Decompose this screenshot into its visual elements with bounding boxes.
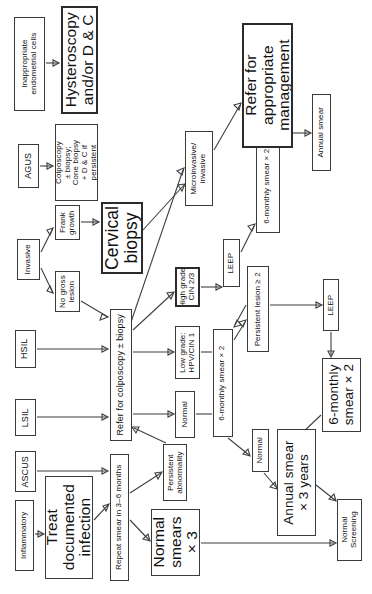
node-label-refer_appropriate_management: Refer for appropriate management: [242, 40, 292, 131]
node-label-agus: AGUS: [24, 153, 34, 179]
node-six_monthly_smear_x2_mid[interactable]: 6-monthly smear × 2: [213, 329, 233, 437]
persistentlesion-to-sixmonthlymid: [234, 305, 246, 327]
node-label-inflammatory: Inflammatory: [20, 512, 29, 559]
node-repeat_smear_3_6[interactable]: Repeat smear in 3–6 months: [110, 454, 129, 581]
node-label-annual_smear: Annual smear: [317, 107, 326, 158]
treat-to-repeat: [94, 504, 109, 520]
cervicalbiopsy-to-micro: [143, 184, 185, 230]
node-no_gross_lesion[interactable]: No gross lesion: [55, 271, 80, 312]
node-high_grade[interactable]: High grade: CIN 2/3: [175, 267, 200, 307]
node-label-frank_growth: Frank growth: [59, 210, 76, 235]
highgrade-to-leep: [201, 284, 222, 290]
node-label-persistent_lesion: Persistent lesion ≥ 2: [254, 272, 263, 346]
node-low_grade[interactable]: Low grade: HPV/CIN 1: [175, 326, 200, 379]
inflammatory-to-treat: [35, 531, 44, 537]
sixmonthlymid-to-persistentlesion: [234, 320, 246, 340]
node-colposcopy_cone[interactable]: Colposcopy ± biopsy; Cone biopsy + D & C…: [55, 124, 98, 201]
node-six_monthly_smear_x2_top[interactable]: 6-monthly smear × 2: [256, 139, 280, 233]
node-label-normal_smears_x3: Normal smears × 3: [151, 517, 200, 568]
persistent-to-refer: [132, 427, 166, 443]
node-label-normal_small: Normal: [256, 437, 265, 463]
agus-to-colposcopy: [40, 163, 53, 169]
node-label-six_monthly_smear_x2_big: 6-monthly smear × 2: [327, 364, 356, 425]
sixmonthlymid-to-normalsmall: [228, 438, 250, 456]
nogross-to-refer: [81, 301, 108, 320]
node-hsil[interactable]: HSIL: [15, 330, 36, 368]
node-treat_documented_infection[interactable]: Treat documented infection: [45, 476, 93, 579]
node-label-normal_path: Normal: [181, 401, 190, 427]
flowchart-canvas: Inappropriate endometrial cellsHysterosc…: [0, 0, 372, 594]
node-cervical_biopsy[interactable]: Cervical biopsy: [101, 202, 143, 274]
node-normal_screening[interactable]: Normal Screening: [337, 499, 362, 561]
node-refer_appropriate_management[interactable]: Refer for appropriate management: [242, 23, 293, 148]
node-label-six_monthly_smear_x2_mid: 6-monthly smear × 2: [219, 345, 228, 420]
node-label-leep_upper: LEEP: [227, 253, 236, 274]
node-label-hsil: HSIL: [21, 339, 31, 359]
repeat-to-normalsmears: [130, 520, 150, 541]
node-label-ascus: ASCUS: [21, 456, 31, 488]
node-label-cervical_biopsy: Cervical biopsy: [103, 206, 141, 270]
node-label-hysteroscopy_dc: Hysteroscopy and/or D & C: [63, 12, 96, 107]
node-label-refer_colposcopy: Refer for colposcopy ± biopsy: [116, 314, 126, 435]
node-frank_growth[interactable]: Frank growth: [55, 205, 80, 240]
node-invasive[interactable]: Invasive: [17, 239, 40, 280]
refer-to-normal: [133, 411, 174, 417]
node-persistent_abnormality[interactable]: Persistent abnormality: [163, 444, 187, 501]
node-refer_colposcopy[interactable]: Refer for colposcopy ± biopsy: [110, 309, 132, 441]
node-ascus[interactable]: ASCUS: [15, 451, 36, 492]
invasive-to-frank: [41, 228, 53, 252]
node-annual_smear[interactable]: Annual smear: [312, 94, 331, 171]
node-normal_smears_x3[interactable]: Normal smears × 3: [151, 509, 200, 576]
node-label-persistent_abnormality: Persistent abnormality: [166, 451, 183, 493]
node-label-invasive: Invasive: [24, 244, 33, 274]
node-label-six_monthly_smear_x2_top: 6-monthly smear × 2: [264, 148, 273, 223]
lsil-to-refer: [37, 414, 108, 420]
leep-to-sixmonthlytop: [241, 224, 255, 252]
node-label-microinvasive: Microinvasive/ invasive: [190, 142, 207, 194]
refer-to-highgrade: [133, 292, 174, 330]
node-label-no_gross_lesion: No gross lesion: [59, 275, 76, 308]
invasive-to-nogross: [41, 268, 53, 293]
node-label-annual_smear_3_years: Annual smear × 3 years: [282, 440, 311, 525]
node-label-lsil: LSIL: [21, 408, 31, 427]
node-label-low_grade: Low grade: HPV/CIN 1: [179, 332, 196, 373]
node-label-high_grade: High grade: CIN 2/3: [179, 267, 196, 307]
node-leep_lower[interactable]: LEEP: [323, 279, 339, 331]
node-hysteroscopy_dc[interactable]: Hysteroscopy and/or D & C: [61, 6, 98, 114]
node-normal_small[interactable]: Normal: [252, 429, 269, 472]
node-label-inappropriate_endometrial: Inappropriate endometrial cells: [21, 33, 38, 95]
frank-to-cervicalbiopsy: [81, 219, 99, 225]
node-leep_upper[interactable]: LEEP: [223, 239, 240, 287]
node-label-leep_lower: LEEP: [327, 295, 336, 316]
micro-to-refermanagement: [214, 103, 241, 150]
node-label-treat_documented_infection: Treat documented infection: [45, 484, 93, 570]
ascus-to-repeat: [37, 468, 108, 474]
repeat-to-persistent: [130, 472, 162, 493]
node-label-repeat_smear_3_6: Repeat smear in 3–6 months: [115, 465, 124, 570]
node-agus[interactable]: AGUS: [18, 144, 39, 188]
node-six_monthly_smear_x2_big[interactable]: 6-monthly smear × 2: [322, 358, 361, 432]
leeplower-to-sixmonthlybig: [328, 332, 334, 357]
inappropriate-to-hysteroscopy: [46, 60, 59, 66]
refer-to-lowgrade: [133, 349, 174, 355]
node-persistent_lesion[interactable]: Persistent lesion ≥ 2: [247, 266, 269, 352]
persistentlesion-to-leeplower: [270, 302, 322, 308]
node-annual_smear_3_years[interactable]: Annual smear × 3 years: [277, 429, 316, 536]
node-inflammatory[interactable]: Inflammatory: [15, 500, 34, 571]
normalsmears-to-normalscreening: [201, 540, 336, 546]
node-label-normal_screening: Normal Screening: [341, 512, 358, 549]
node-label-colposcopy_cone: Colposcopy ± biopsy; Cone biopsy + D & C…: [55, 140, 98, 186]
hsil-to-refer: [37, 346, 108, 352]
node-normal_path[interactable]: Normal: [175, 391, 195, 438]
node-lsil[interactable]: LSIL: [15, 399, 36, 436]
normalsmall-to-annual3: [264, 473, 277, 489]
node-microinvasive[interactable]: Microinvasive/ invasive: [185, 131, 213, 206]
node-inappropriate_endometrial[interactable]: Inappropriate endometrial cells: [14, 17, 45, 111]
